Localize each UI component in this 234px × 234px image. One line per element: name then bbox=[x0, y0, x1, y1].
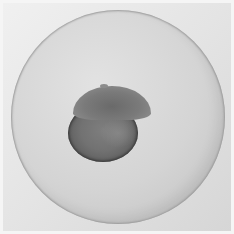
image-frame: Brightfield micrograph of an embryo insi… bbox=[0, 0, 234, 234]
yolk-highlight bbox=[100, 118, 136, 148]
animal-pole-tip bbox=[100, 84, 108, 88]
